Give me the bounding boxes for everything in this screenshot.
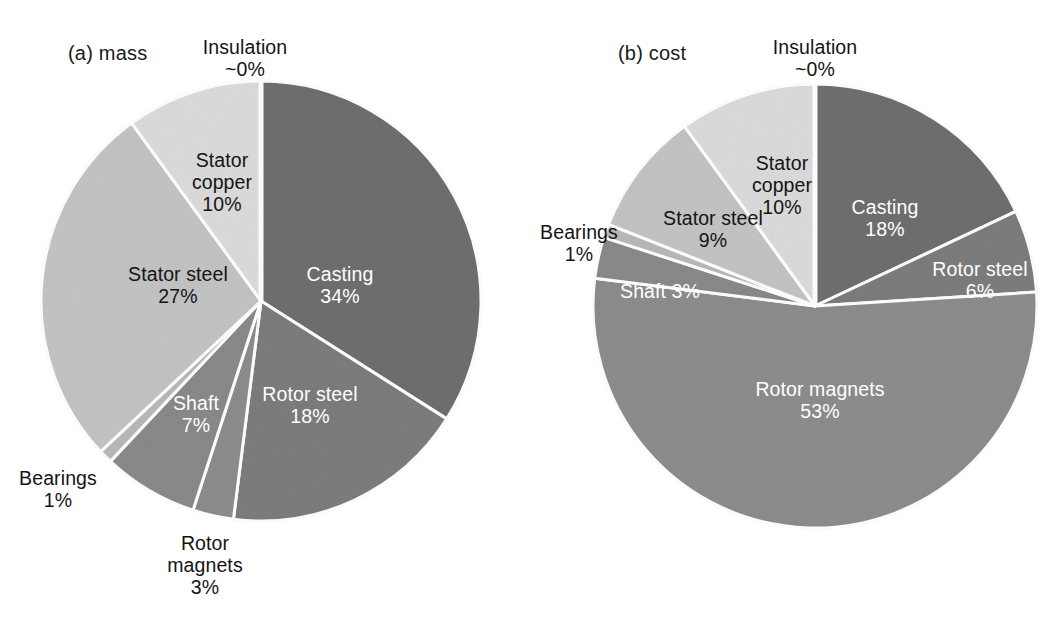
label-casting-mass: Casting 34% xyxy=(270,263,410,307)
label-shaft-cost: Shaft 3% xyxy=(585,280,735,302)
label-rotor-magnets-mass: Rotor magnets 3% xyxy=(135,532,275,598)
label-rotor-steel-cost: Rotor steel 6% xyxy=(900,258,1060,302)
label-bearings-mass: Bearings 1% xyxy=(0,467,123,511)
pie-chart-panel-cost: (b) cost Insulation ~0% Stator copper 10… xyxy=(530,0,1060,633)
label-casting-cost: Casting 18% xyxy=(815,196,955,240)
label-stator-copper-mass: Stator copper 10% xyxy=(162,149,282,215)
label-rotor-magnets-cost: Rotor magnets 53% xyxy=(695,378,945,422)
panel-caption-mass: (a) mass xyxy=(68,42,147,65)
label-shaft-mass: Shaft 7% xyxy=(141,392,251,436)
panel-caption-cost: (b) cost xyxy=(618,42,686,65)
figure-two-pie-charts: (a) mass Insulation ~0% Stator copper 10… xyxy=(0,0,1060,633)
label-insulation-mass: Insulation ~0% xyxy=(170,36,320,80)
label-stator-steel-cost: Stator steel 9% xyxy=(623,207,803,251)
label-insulation-cost: Insulation ~0% xyxy=(740,36,890,80)
label-stator-steel-mass: Stator steel 27% xyxy=(88,263,268,307)
pie-chart-panel-mass: (a) mass Insulation ~0% Stator copper 10… xyxy=(0,0,530,633)
pie-chart-cost-svg xyxy=(530,0,1060,633)
label-rotor-steel-mass: Rotor steel 18% xyxy=(230,383,390,427)
